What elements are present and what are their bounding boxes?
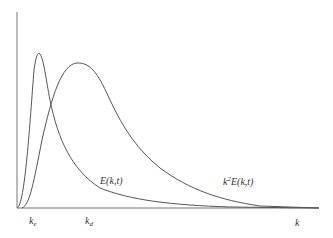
label-k2E-curve: k2E(k,t) [223, 175, 254, 188]
tick-label-ke: ke [29, 215, 37, 228]
curve-k2E [22, 63, 319, 208]
axis-label-k: k [295, 217, 300, 228]
spectrum-diagram: E(k,t) k2E(k,t) ke kd k [0, 0, 333, 238]
label-E-curve: E(k,t) [99, 175, 123, 187]
curve-E [17, 53, 319, 208]
tick-label-kd: kd [85, 215, 93, 228]
